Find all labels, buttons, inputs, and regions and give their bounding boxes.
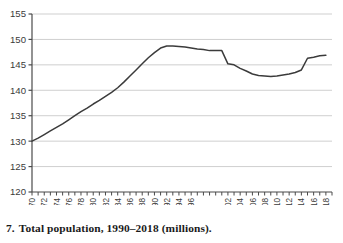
svg-text:2002: 2002 <box>224 198 233 205</box>
svg-text:1986: 1986 <box>126 198 135 205</box>
svg-text:120: 120 <box>10 186 26 197</box>
svg-text:1988: 1988 <box>138 198 147 205</box>
svg-text:2004: 2004 <box>236 198 245 205</box>
line-chart: 120125130135140145150155 197019721974197… <box>0 0 343 205</box>
svg-text:1984: 1984 <box>114 198 123 205</box>
svg-text:145: 145 <box>10 59 26 70</box>
y-axis <box>29 14 33 192</box>
svg-text:140: 140 <box>10 85 26 96</box>
svg-text:2006: 2006 <box>249 198 258 205</box>
caption-text: Total population, 1990–2018 (millions). <box>19 222 212 234</box>
x-tick-labels: 1970197219741976197819801982198419861988… <box>28 198 331 205</box>
svg-text:125: 125 <box>10 161 26 172</box>
y-tick-labels: 120125130135140145150155 <box>10 8 26 197</box>
svg-text:135: 135 <box>10 110 26 121</box>
svg-text:1976: 1976 <box>65 198 74 205</box>
svg-text:1978: 1978 <box>77 198 86 205</box>
svg-text:2016: 2016 <box>310 198 319 205</box>
svg-text:1992: 1992 <box>163 198 172 205</box>
svg-text:2018: 2018 <box>322 198 331 205</box>
caption-number: 7. <box>6 222 15 234</box>
svg-text:150: 150 <box>10 34 26 45</box>
chart-svg: 120125130135140145150155 197019721974197… <box>0 0 343 205</box>
population-series-line <box>32 46 326 141</box>
svg-text:155: 155 <box>10 8 26 19</box>
svg-text:2014: 2014 <box>297 198 306 205</box>
figure-container: 120125130135140145150155 197019721974197… <box>0 0 343 243</box>
svg-text:1990: 1990 <box>151 198 160 205</box>
svg-text:1972: 1972 <box>40 198 49 205</box>
svg-text:1970: 1970 <box>28 198 37 205</box>
svg-text:1982: 1982 <box>102 198 111 205</box>
svg-text:2010: 2010 <box>273 198 282 205</box>
svg-text:1980: 1980 <box>89 198 98 205</box>
x-axis <box>32 192 332 196</box>
svg-text:2008: 2008 <box>261 198 270 205</box>
gridlines <box>32 14 332 167</box>
svg-text:1994: 1994 <box>175 198 184 205</box>
svg-text:2012: 2012 <box>285 198 294 205</box>
figure-caption: 7.Total population, 1990–2018 (millions)… <box>6 222 336 234</box>
svg-text:1996: 1996 <box>187 198 196 205</box>
svg-text:1974: 1974 <box>53 198 62 205</box>
svg-text:130: 130 <box>10 136 26 147</box>
